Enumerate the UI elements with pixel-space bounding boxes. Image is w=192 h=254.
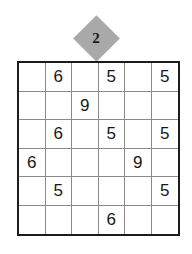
diamond-badge: 2 (73, 15, 119, 61)
grid-cell-r3c5[interactable] (125, 120, 152, 149)
grid-cell-r4c5[interactable]: 9 (125, 149, 152, 178)
grid-cell-r1c2[interactable]: 6 (46, 63, 73, 92)
grid-cell-r5c5[interactable] (125, 177, 152, 206)
grid-cell-r3c4[interactable]: 5 (99, 120, 126, 149)
grid-cell-r4c1[interactable]: 6 (19, 149, 46, 178)
grid-cell-r2c2[interactable] (46, 92, 73, 121)
grid-cell-r3c2[interactable]: 6 (46, 120, 73, 149)
grid-cell-r2c1[interactable] (19, 92, 46, 121)
grid-cell-r5c4[interactable] (99, 177, 126, 206)
sudoku-grid[interactable]: 6 5 5 9 6 5 5 6 9 5 5 6 (17, 61, 180, 236)
grid-cell-r2c5[interactable] (125, 92, 152, 121)
diamond-badge-value: 2 (73, 15, 119, 61)
grid-cell-r4c4[interactable] (99, 149, 126, 178)
grid-cell-r4c6[interactable] (152, 149, 179, 178)
grid-cell-r5c2[interactable]: 5 (46, 177, 73, 206)
grid-cell-r2c4[interactable] (99, 92, 126, 121)
grid-cell-r2c3[interactable]: 9 (72, 92, 99, 121)
grid-cell-r1c3[interactable] (72, 63, 99, 92)
grid-cell-r1c4[interactable]: 5 (99, 63, 126, 92)
grid-cell-r1c1[interactable] (19, 63, 46, 92)
grid-cell-r6c2[interactable] (46, 206, 73, 235)
grid-cell-r3c3[interactable] (72, 120, 99, 149)
grid-cell-r6c4[interactable]: 6 (99, 206, 126, 235)
grid-cell-r6c3[interactable] (72, 206, 99, 235)
grid-cell-r4c2[interactable] (46, 149, 73, 178)
puzzle-root: 2 6 5 5 9 6 5 5 6 9 5 5 6 (0, 0, 192, 254)
grid-cell-r4c3[interactable] (72, 149, 99, 178)
grid-cell-r6c5[interactable] (125, 206, 152, 235)
grid-cell-r5c6[interactable]: 5 (152, 177, 179, 206)
grid-cell-r5c1[interactable] (19, 177, 46, 206)
grid-cell-r5c3[interactable] (72, 177, 99, 206)
grid-cell-r6c1[interactable] (19, 206, 46, 235)
grid-cell-r1c5[interactable] (125, 63, 152, 92)
grid-cell-r2c6[interactable] (152, 92, 179, 121)
grid-cell-r1c6[interactable]: 5 (152, 63, 179, 92)
grid-cell-r3c1[interactable] (19, 120, 46, 149)
grid-cell-r6c6[interactable] (152, 206, 179, 235)
grid-cell-r3c6[interactable]: 5 (152, 120, 179, 149)
